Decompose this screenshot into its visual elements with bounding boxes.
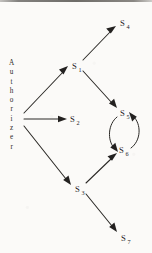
node-s2-base: S: [70, 114, 75, 124]
node-s6: S 6: [119, 145, 128, 157]
edge-s3-to-s6: [86, 153, 117, 183]
edge-authorizer-to-s2: [24, 116, 67, 122]
node-s7: S 7: [121, 233, 130, 245]
edge-s1-to-s5: [83, 71, 117, 108]
node-s3-base: S: [75, 184, 80, 194]
node-s4: S 4: [120, 18, 129, 30]
node-s2-sub: 2: [76, 119, 79, 126]
node-s3: S 3: [75, 184, 84, 196]
node-s6-base: S: [119, 145, 124, 155]
node-s5-base: S: [120, 108, 125, 118]
node-s3-sub: 3: [81, 189, 84, 196]
graph-edges-and-nodes: S 1 S 2 S 3 S 4 S 5 S 6 S 7: [0, 0, 152, 253]
node-s2: S 2: [70, 114, 79, 126]
node-s1-sub: 1: [78, 66, 81, 73]
edge-s3-to-s7: [86, 194, 117, 232]
node-s7-sub: 7: [127, 238, 130, 245]
node-s7-base: S: [121, 233, 126, 243]
node-s5: S 5: [120, 108, 129, 120]
node-s1-base: S: [72, 61, 77, 71]
edge-authorizer-to-s1: [24, 66, 68, 113]
edge-s5-to-s6-curve: [109, 117, 118, 152]
node-s1: S 1: [72, 61, 81, 73]
edge-s1-to-s4: [83, 26, 116, 60]
node-s4-sub: 4: [126, 23, 129, 30]
node-s6-sub: 6: [125, 150, 128, 157]
figure-canvas: A u t h o r i z e r: [0, 0, 152, 253]
node-s4-base: S: [120, 18, 125, 28]
node-s5-sub: 5: [126, 113, 129, 120]
edge-s6-to-s5-curve: [129, 112, 139, 148]
edge-authorizer-to-s3: [24, 126, 71, 185]
